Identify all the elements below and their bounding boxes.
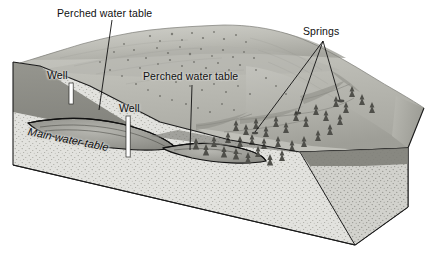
well-left xyxy=(69,83,73,104)
label-well-middle: Well xyxy=(119,103,140,114)
label-perched-water-table-middle: Perched water table xyxy=(143,71,238,82)
well-middle xyxy=(126,116,130,157)
well-middle-casing xyxy=(126,116,130,157)
label-perched-water-table-top: Perched water table xyxy=(57,8,152,19)
well-left-casing xyxy=(69,83,73,104)
label-well-left: Well xyxy=(47,70,68,81)
label-springs: Springs xyxy=(303,26,339,37)
block-diagram-figure: Perched water table Perched water table … xyxy=(0,0,439,264)
